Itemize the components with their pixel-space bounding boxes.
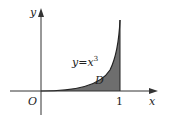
curve-label-exponent: 3 [94,55,98,63]
x-axis-label: x [149,95,156,108]
x-axis-arrow-icon [149,88,158,94]
y-axis-label: y [29,6,37,19]
diagram-canvas: y x O 1 D y=x3 [0,0,169,127]
origin-label: O [28,95,37,108]
curve-label: y=x3 [71,55,98,69]
region-label: D [94,74,104,87]
tick-label-1: 1 [116,95,123,108]
curve-label-base: y=x [71,56,94,69]
y-axis-arrow-icon [38,8,44,17]
